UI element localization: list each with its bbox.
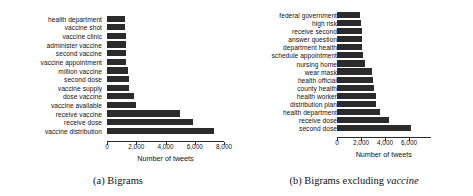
y-tick-label: second dose [64, 77, 102, 84]
caption-emphasis: vaccine [387, 175, 419, 186]
bar [337, 93, 376, 99]
caption-text: Bigrams [107, 175, 143, 186]
caption-prefix: (a) [93, 175, 105, 186]
y-tick-label: nursing home [296, 62, 337, 69]
chart-panel-b: federal governmenthigh riskreceive secon… [236, 0, 472, 196]
y-tick-label: vaccine supply [58, 86, 102, 93]
y-tick-label: wear mask [305, 70, 337, 77]
y-tick-label: receive dose [64, 120, 102, 127]
y-tick-label: dose vaccine [63, 94, 102, 101]
bar [107, 93, 134, 99]
bar [107, 76, 129, 82]
caption-prefix: (b) [289, 175, 301, 186]
y-tick-label: federal government [279, 13, 337, 20]
bar [107, 24, 125, 30]
y-tick-label: receive dose [299, 118, 337, 125]
y-tick-label: million vaccine [58, 69, 102, 76]
bar [337, 20, 361, 26]
bar [107, 33, 126, 39]
bar [107, 110, 180, 116]
x-tick-label: 8,000 [216, 144, 232, 150]
bar [337, 109, 380, 115]
bar [337, 52, 363, 58]
bar [107, 16, 125, 22]
y-tick-label: receive second [292, 29, 337, 36]
bar [107, 119, 193, 125]
x-tick-label: 4,000 [158, 144, 174, 150]
y-tick-label: health official [298, 78, 337, 85]
bar [107, 50, 126, 56]
y-tick-label: schedule appointment [271, 53, 337, 60]
bar [337, 125, 411, 131]
caption-text: Bigrams excluding [304, 175, 384, 186]
bar [337, 60, 365, 66]
y-tick-label: vaccine appointment [41, 60, 102, 67]
y-tick-label: county health [297, 86, 337, 93]
y-tick-label: vaccine available [51, 103, 102, 110]
bar [107, 41, 126, 47]
x-axis-line [337, 137, 431, 138]
y-tick-label: department health [283, 45, 337, 52]
y-tick-label: second vaccine [56, 51, 102, 58]
bar [107, 102, 136, 108]
bar [337, 117, 389, 123]
y-tick-label: answer question [288, 37, 337, 44]
y-tick-label: high risk [312, 21, 337, 28]
plot-area-b: federal governmenthigh riskreceive secon… [236, 0, 472, 152]
plot-area-a: health departmentvaccine shotvaccine cli… [0, 0, 236, 152]
bar [337, 28, 362, 34]
bar [107, 67, 128, 73]
y-tick-label: health department [48, 17, 102, 24]
y-tick-label: health worker [297, 94, 337, 101]
y-tick-label: vaccine clinic [62, 34, 102, 41]
panel-caption-b: (b) Bigrams excluding vaccine [236, 176, 472, 187]
y-tick-label: vaccine distribution [45, 129, 102, 136]
panel-caption-a: (a) Bigrams [0, 176, 236, 187]
bar [337, 12, 360, 18]
figure-two-bar-charts: health departmentvaccine shotvaccine cli… [0, 0, 473, 196]
bar [337, 101, 376, 107]
x-tick-label: 6,000 [187, 144, 203, 150]
bar [337, 68, 372, 74]
x-tick-label: 6,000 [401, 140, 417, 146]
x-tick-label: 2,000 [128, 144, 144, 150]
y-tick-label: distribution plan [290, 102, 337, 109]
y-tick-label: vaccine shot [65, 25, 102, 32]
x-tick-label: 4,000 [377, 140, 393, 146]
bar [107, 85, 129, 91]
bar [337, 85, 374, 91]
bar [107, 59, 126, 65]
y-tick-label: administer vaccine [46, 43, 102, 50]
bar [107, 128, 214, 134]
chart-panel-a: health departmentvaccine shotvaccine cli… [0, 0, 236, 196]
bar [337, 36, 362, 42]
y-tick-label: second dose [299, 126, 337, 133]
y-tick-label: receive vaccine [56, 112, 102, 119]
bar [337, 77, 373, 83]
y-tick-label: health department [283, 110, 337, 117]
x-axis-title: Number of tweets [356, 151, 412, 158]
x-tick-label: 0 [105, 144, 109, 150]
x-tick-label: 0 [335, 140, 339, 146]
bar [337, 44, 362, 50]
x-tick-label: 2,000 [353, 140, 369, 146]
x-axis-title: Number of tweets [137, 155, 193, 162]
